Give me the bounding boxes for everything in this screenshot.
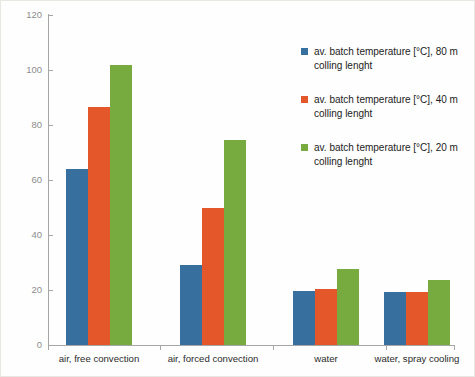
legend-color-swatch: [301, 96, 308, 103]
chart-legend: av. batch temperature [°C], 80 m colling…: [301, 45, 473, 189]
bar[interactable]: [384, 292, 406, 345]
legend-color-swatch: [301, 48, 308, 55]
bar-chart-figure: batch temerature [ °C] 020406080100120 a…: [0, 0, 475, 377]
y-tick-mark: [48, 290, 53, 291]
legend-label: av. batch temperature [°C], 80 m colling…: [314, 45, 466, 73]
x-tick-mark: [273, 345, 274, 350]
bar[interactable]: [293, 291, 315, 345]
bar[interactable]: [110, 65, 132, 345]
y-tick-label: 100: [6, 64, 42, 75]
y-tick-mark: [48, 235, 53, 236]
bar[interactable]: [406, 292, 428, 345]
x-tick-mark: [386, 345, 387, 350]
bar[interactable]: [180, 265, 202, 345]
legend-item[interactable]: av. batch temperature [°C], 20 m colling…: [301, 141, 473, 169]
y-tick-label: 20: [6, 284, 42, 295]
legend-item[interactable]: av. batch temperature [°C], 80 m colling…: [301, 45, 473, 73]
y-tick-label: 80: [6, 119, 42, 130]
legend-label: av. batch temperature [°C], 40 m colling…: [314, 93, 466, 121]
bar[interactable]: [88, 107, 110, 345]
bar[interactable]: [315, 289, 337, 345]
legend-label: av. batch temperature [°C], 20 m colling…: [314, 141, 466, 169]
x-tick-mark: [160, 345, 161, 350]
x-axis-category-label: water, spray cooling: [347, 353, 475, 364]
y-tick-mark: [48, 70, 53, 71]
bar[interactable]: [202, 208, 224, 345]
bar[interactable]: [428, 280, 450, 345]
bar[interactable]: [337, 269, 359, 345]
x-tick-mark: [454, 345, 455, 350]
y-tick-label: 60: [6, 174, 42, 185]
legend-item[interactable]: av. batch temperature [°C], 40 m colling…: [301, 93, 473, 121]
legend-color-swatch: [301, 144, 308, 151]
x-axis-line: [48, 345, 454, 346]
y-tick-label: 0: [6, 339, 42, 350]
x-tick-mark: [48, 345, 49, 350]
bar[interactable]: [66, 169, 88, 345]
y-tick-mark: [48, 15, 53, 16]
y-tick-label: 120: [6, 9, 42, 20]
y-tick-mark: [48, 180, 53, 181]
bar[interactable]: [224, 140, 246, 345]
y-tick-mark: [48, 125, 53, 126]
y-tick-label: 40: [6, 229, 42, 240]
